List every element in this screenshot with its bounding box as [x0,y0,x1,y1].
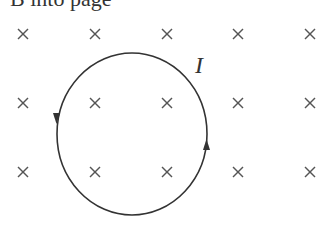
field-cross-icon [90,29,100,39]
current-label: I [195,52,203,79]
field-cross-icon [233,98,243,108]
field-cross-icon [162,98,172,108]
current-loop [57,53,207,215]
field-cross-icon [162,29,172,39]
field-cross-icon [233,29,243,39]
field-cross-icon [18,98,28,108]
field-cross-icon [233,167,243,177]
field-cross-icon [162,167,172,177]
field-cross-icon [305,167,315,177]
arrow-right-up-icon [203,139,210,150]
field-cross-icon [305,29,315,39]
field-cross-icon [90,98,100,108]
magnetic-field-diagram [0,0,317,230]
field-cross-icon [18,29,28,39]
field-cross-icon [18,167,28,177]
field-cross-icon [90,167,100,177]
field-cross-icon [305,98,315,108]
